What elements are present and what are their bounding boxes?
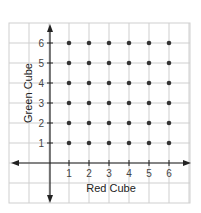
data-point	[107, 61, 112, 66]
data-point	[127, 81, 132, 86]
x-axis-left-arrow-icon	[11, 160, 19, 166]
data-point	[107, 121, 112, 126]
data-point	[87, 41, 92, 46]
data-point	[127, 41, 132, 46]
data-point	[67, 141, 72, 146]
scatter-chart: 123456123456 Red Cube Green Cube	[0, 0, 201, 213]
data-point	[127, 141, 132, 146]
y-axis-label: Green Cube	[22, 63, 34, 123]
data-point	[147, 81, 152, 86]
y-tick-label: 3	[38, 98, 44, 109]
data-point	[107, 141, 112, 146]
data-point	[167, 41, 172, 46]
data-point	[147, 41, 152, 46]
data-point	[67, 41, 72, 46]
data-point	[107, 81, 112, 86]
y-tick-label: 1	[38, 138, 44, 149]
grid	[9, 23, 190, 203]
data-point	[147, 121, 152, 126]
data-point	[167, 121, 172, 126]
data-point	[147, 61, 152, 66]
y-axis-up-arrow-icon	[47, 24, 53, 32]
data-point	[87, 61, 92, 66]
data-point	[167, 141, 172, 146]
data-point	[147, 141, 152, 146]
y-axis-down-arrow-icon	[47, 195, 53, 203]
data-point	[107, 41, 112, 46]
x-tick-label: 5	[146, 168, 152, 179]
data-point	[87, 81, 92, 86]
data-point	[167, 101, 172, 106]
data-points	[67, 41, 172, 146]
data-point	[87, 141, 92, 146]
x-tick-label: 6	[166, 168, 172, 179]
data-point	[67, 81, 72, 86]
data-point	[107, 101, 112, 106]
data-point	[67, 61, 72, 66]
x-tick-label: 1	[66, 168, 72, 179]
y-tick-label: 4	[38, 78, 44, 89]
y-tick-label: 2	[38, 118, 44, 129]
data-point	[147, 101, 152, 106]
y-tick-label: 6	[38, 38, 44, 49]
data-point	[127, 121, 132, 126]
y-tick-label: 5	[38, 58, 44, 69]
x-axis-label: Red Cube	[86, 182, 136, 194]
data-point	[87, 101, 92, 106]
data-point	[167, 81, 172, 86]
x-tick-label: 4	[126, 168, 132, 179]
data-point	[67, 121, 72, 126]
x-tick-label: 3	[106, 168, 112, 179]
x-tick-label: 2	[86, 168, 92, 179]
tick-labels: 123456123456	[38, 38, 172, 180]
data-point	[67, 101, 72, 106]
data-point	[167, 61, 172, 66]
data-point	[127, 61, 132, 66]
data-point	[87, 121, 92, 126]
axes	[11, 24, 191, 203]
data-point	[127, 101, 132, 106]
